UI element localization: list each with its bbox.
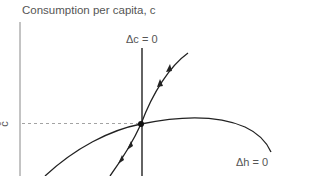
- arrow-icon: [166, 64, 172, 72]
- steady-state-c-label: c̄: [0, 121, 10, 127]
- dc-zero-label: Δc = 0: [126, 33, 158, 45]
- steady-state-point: [138, 121, 144, 127]
- y-axis-title: Consumption per capita, c: [22, 4, 156, 16]
- phase-diagram: [0, 0, 310, 176]
- dh-zero-label: Δh = 0: [236, 156, 268, 168]
- arrow-icon: [157, 79, 163, 87]
